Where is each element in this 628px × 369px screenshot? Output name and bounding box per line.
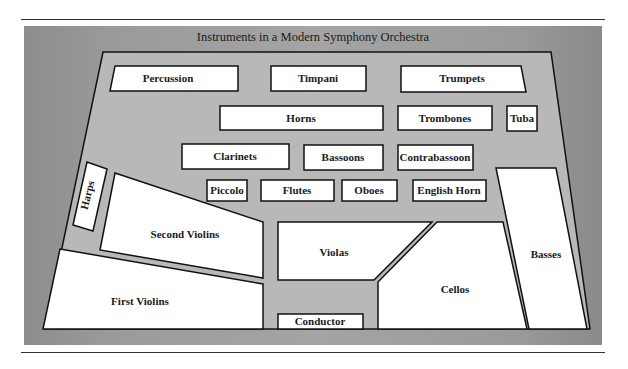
label-flutes: Flutes: [283, 184, 312, 196]
label-oboes: Oboes: [354, 184, 384, 196]
label-piccolo: Piccolo: [210, 184, 244, 196]
label-trumpets: Trumpets: [439, 72, 485, 84]
orchestra-diagram: Percussion Timpani Trumpets Horns Trombo…: [0, 0, 628, 369]
label-basses: Basses: [531, 248, 562, 260]
bottom-rule: [21, 352, 605, 353]
label-conductor: Conductor: [295, 315, 346, 327]
label-contrabassoon: Contrabassoon: [400, 151, 471, 163]
label-timpani: Timpani: [298, 72, 338, 84]
label-second-violins: Second Violins: [151, 228, 220, 240]
label-bassoons: Bassoons: [322, 151, 366, 163]
label-horns: Horns: [286, 112, 316, 124]
label-trombones: Trombones: [419, 112, 472, 124]
label-tuba: Tuba: [510, 112, 535, 124]
label-first-violins: First Violins: [111, 295, 169, 307]
label-cellos: Cellos: [441, 283, 470, 295]
label-english-horn: English Horn: [417, 184, 480, 196]
label-violas: Violas: [320, 246, 350, 258]
label-clarinets: Clarinets: [213, 150, 257, 162]
label-percussion: Percussion: [143, 72, 194, 84]
